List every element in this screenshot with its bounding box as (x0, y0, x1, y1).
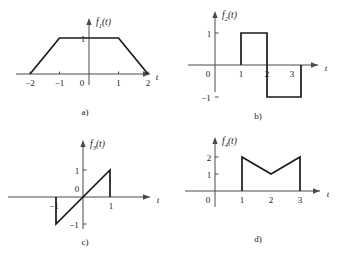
y-axis-arrow-c (80, 140, 85, 147)
caption-b: b) (254, 111, 262, 121)
caption-c: c) (82, 237, 89, 247)
x-axis-label-a: t (156, 72, 159, 82)
y-tick-label-c-1: 0 (75, 184, 80, 194)
y-tick-label-d-0: 1 (207, 170, 212, 180)
y-axis-arrow-d (212, 137, 217, 144)
signal-trace-d (242, 157, 300, 191)
x-axis-arrow-d (313, 188, 320, 193)
x-tick-label-a-1: −1 (55, 78, 65, 88)
figure-grid: −2 −1 0 1 2 1 f1(t) t a) (0, 0, 341, 258)
chart-svg-a: −2 −1 0 1 2 1 f1(t) t a) (0, 0, 170, 129)
y-axis-label-b-tail: (t) (228, 10, 237, 21)
chart-svg-c: −1 1 1 0 −1 f3(t) t c) (0, 129, 170, 258)
x-axis-label-b: t (325, 63, 328, 73)
y-tick-label-a-0: 1 (81, 34, 86, 44)
x-tick-label-b-3: 3 (290, 69, 295, 79)
ticks-d (215, 157, 219, 174)
y-tick-label-c-0: 1 (75, 166, 80, 176)
y-axis-label-d-tail: (t) (228, 136, 237, 147)
x-tick-label-a-3: 1 (116, 78, 121, 88)
x-tick-label-a-0: −2 (25, 78, 35, 88)
y-axis-label-c: f3(t) (90, 139, 105, 151)
x-tick-label-a-4: 2 (146, 78, 151, 88)
y-axis-label-c-tail: (t) (96, 139, 105, 150)
y-axis-arrow-a (86, 18, 91, 25)
y-tick-label-d-1: 2 (207, 153, 212, 163)
x-tick-label-b-1: 1 (239, 69, 244, 79)
x-axis-label-d: t (327, 189, 330, 199)
y-axis-label-b: f2(t) (222, 10, 237, 22)
y-tick-label-b-0: 1 (207, 29, 212, 39)
y-axis-label-d: f4(t) (222, 136, 237, 148)
caption-a: a) (82, 107, 89, 117)
tick-labels-a: −2 −1 0 1 2 1 (25, 34, 150, 89)
x-tick-label-d-2: 2 (269, 195, 274, 205)
x-tick-label-a-2: 0 (80, 78, 85, 88)
x-tick-label-d-3: 3 (298, 195, 303, 205)
y-tick-label-b-1: −1 (201, 93, 211, 103)
panel-b-chart: 0 1 2 3 1 −1 f2(t) t b) (170, 0, 341, 129)
y-axis-arrow-b (212, 11, 217, 18)
panel-c-chart: −1 1 1 0 −1 f3(t) t c) (0, 129, 170, 258)
x-tick-label-d-0: 0 (206, 195, 211, 205)
x-tick-label-c-0: −1 (49, 201, 59, 211)
chart-svg-b: 0 1 2 3 1 −1 f2(t) t b) (170, 0, 341, 129)
x-tick-label-c-1: 1 (109, 201, 114, 211)
panel-a-chart: −2 −1 0 1 2 1 f1(t) t a) (0, 0, 170, 129)
y-axis-label-a: f1(t) (96, 17, 111, 29)
x-axis-arrow-b (311, 62, 318, 67)
y-axis-label-a-tail: (t) (102, 17, 111, 28)
x-tick-label-b-0: 0 (206, 69, 211, 79)
caption-d: d) (254, 234, 262, 244)
panel-d-chart: 0 1 2 3 1 2 f4(t) t d) (170, 129, 341, 258)
x-tick-label-d-1: 1 (240, 195, 245, 205)
tick-labels-d: 0 1 2 3 1 2 (206, 153, 303, 206)
x-axis-label-c: t (157, 195, 160, 205)
axis-title-c: f3(t) t (90, 139, 160, 205)
x-axis-arrow-c (143, 194, 150, 199)
x-tick-label-b-2: 2 (265, 69, 270, 79)
chart-svg-d: 0 1 2 3 1 2 f4(t) t d) (170, 129, 341, 258)
y-tick-label-c-2: −1 (69, 220, 79, 230)
axes-b (188, 11, 318, 92)
